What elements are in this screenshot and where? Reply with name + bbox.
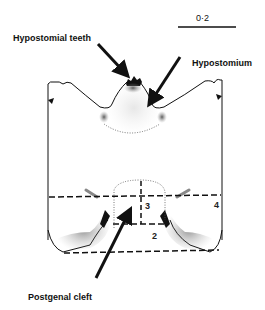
label-hypostomium: Hypostomium [192,58,252,68]
arrow-hypostomium [152,57,180,100]
dashed-line-upper [49,195,221,197]
head-capsule-diagram [0,0,265,310]
postgenal-cleft-outline [114,180,165,228]
arrow-hypostomial-teeth [98,44,124,72]
region-2-label: 2 [152,231,157,241]
dashed-line-lower [64,250,219,253]
label-postgenal-cleft: Postgenal cleft [28,292,92,302]
label-hypostomial-teeth: Hypostomial teeth [13,33,91,43]
region-3-label: 3 [145,201,150,211]
region-4-label: 4 [214,200,219,210]
scale-bar-label: 0·2 [196,13,209,23]
